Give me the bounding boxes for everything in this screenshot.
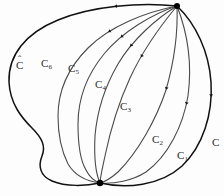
label-subscript-C2: 2 xyxy=(160,139,164,147)
label-base-C2: C xyxy=(152,133,160,145)
arrow-mark-C-hat-outer xyxy=(114,4,117,8)
curve-C-hat-outer xyxy=(9,5,177,186)
curve-label-C: C xyxy=(212,137,220,148)
curve-label-C5: C5 xyxy=(68,63,79,76)
curve-label-C4: C4 xyxy=(95,79,106,92)
curve-C6-curve xyxy=(58,6,177,183)
curve-label-C3: C3 xyxy=(120,101,131,114)
bottom-vertex xyxy=(97,180,103,186)
label-subscript-C3: 3 xyxy=(128,106,132,114)
label-subscript-C5: 5 xyxy=(76,68,80,76)
label-base-C4: C xyxy=(95,78,103,90)
label-base-C: C xyxy=(212,136,220,148)
label-base-C1: C xyxy=(177,149,185,161)
curve-label-C-hat: Cˆ xyxy=(16,60,24,71)
curve-family-diagram xyxy=(0,0,224,196)
label-subscript-C4: 4 xyxy=(103,84,107,92)
curve-label-C2: C2 xyxy=(152,134,163,147)
arrow-mark-C-outer-right xyxy=(209,94,213,97)
label-base-C6: C xyxy=(41,57,49,69)
hat-accent-icon: ˆ xyxy=(18,55,22,65)
figure-container: CˆC6C5C4C3C2C1C xyxy=(0,0,224,196)
label-base-C-hat: Cˆ xyxy=(16,60,24,71)
top-vertex xyxy=(174,3,180,9)
curve-C3-curve xyxy=(100,6,177,183)
curve-label-C1: C1 xyxy=(177,150,188,163)
label-subscript-C1: 1 xyxy=(185,155,189,163)
label-subscript-C6: 6 xyxy=(49,63,53,71)
label-base-C3: C xyxy=(120,100,128,112)
curve-label-C6: C6 xyxy=(41,58,52,71)
label-base-C5: C xyxy=(68,62,76,74)
curve-C2-curve xyxy=(100,6,177,183)
